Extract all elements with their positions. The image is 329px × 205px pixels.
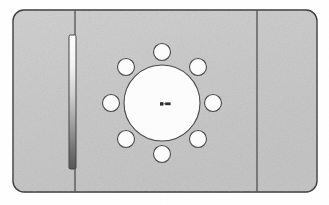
bolt-hole-1 xyxy=(154,44,171,61)
bolt-hole-4 xyxy=(190,131,207,148)
bolt-hole-5 xyxy=(154,146,171,163)
vertical-slot-group xyxy=(69,35,76,169)
bolt-hole-7 xyxy=(103,95,120,112)
drawing-canvas xyxy=(0,0,329,205)
center-mark-bar-left xyxy=(160,102,163,105)
center-mark-tick xyxy=(164,103,165,104)
mounting-plate-drawing xyxy=(0,0,329,205)
bolt-hole-2 xyxy=(190,59,207,76)
center-mark-group xyxy=(160,102,171,105)
bolt-hole-6 xyxy=(118,131,135,148)
vertical-slot xyxy=(69,35,76,169)
bolt-hole-3 xyxy=(205,95,222,112)
center-mark-bar-right xyxy=(165,102,170,105)
bolt-hole-8 xyxy=(118,59,135,76)
